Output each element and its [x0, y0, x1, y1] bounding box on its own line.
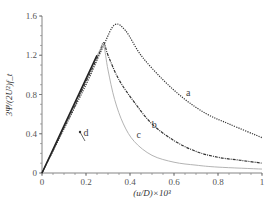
y-tick-label: 0.4	[26, 129, 38, 139]
curve-label-a: a	[186, 87, 191, 98]
y-tick-label: 1.6	[26, 11, 38, 21]
curve-label-b: b	[152, 119, 157, 130]
x-axis-label: (u/D)×10³	[133, 188, 171, 198]
x-tick-label: 0	[40, 177, 45, 187]
x-axis: 00.20.40.60.81	[40, 173, 265, 187]
x-tick-label: 0.4	[124, 177, 136, 187]
y-tick-label: 1.2	[26, 50, 37, 60]
curve-label-d: d	[84, 127, 89, 138]
curve-d-pointer-dot	[79, 131, 81, 133]
series-c-line	[42, 44, 262, 173]
y-tick-label: 0.8	[26, 90, 38, 100]
y-axis-label: 3Ψ/(2U²)f_t	[4, 73, 14, 117]
y-tick-label: 0	[33, 168, 38, 178]
x-tick-label: 1	[260, 177, 265, 187]
x-tick-label: 0.6	[168, 177, 180, 187]
curve-label-c: c	[137, 129, 142, 140]
chart: 00.40.81.21.6 00.20.40.60.81 abcd (u/D)×…	[0, 0, 274, 212]
series-a-line	[42, 24, 262, 173]
plot-series	[42, 24, 262, 173]
curve-labels: abcd	[84, 87, 192, 139]
x-tick-label: 0.8	[212, 177, 224, 187]
x-tick-label: 0.2	[80, 177, 91, 187]
series-d-line	[42, 55, 97, 173]
y-axis: 00.40.81.21.6	[26, 11, 42, 178]
